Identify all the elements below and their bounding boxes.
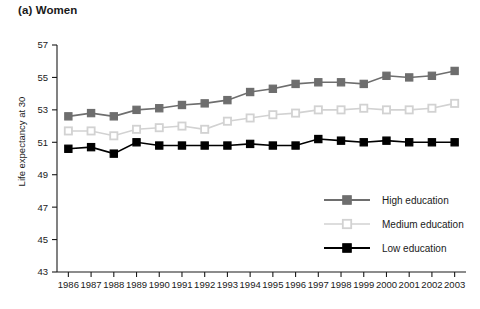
x-axis-tick-label: 1998 bbox=[330, 279, 351, 290]
y-axis-tick-label: 45 bbox=[37, 234, 48, 245]
data-point-marker bbox=[224, 97, 231, 104]
data-point-marker bbox=[406, 106, 413, 113]
data-point-marker bbox=[201, 126, 208, 133]
data-point-marker bbox=[65, 145, 72, 152]
x-axis-tick-label: 1994 bbox=[240, 279, 261, 290]
data-point-marker bbox=[360, 139, 367, 146]
series-high-education bbox=[65, 67, 458, 120]
data-point-marker bbox=[315, 79, 322, 86]
x-axis-tick-label: 2000 bbox=[376, 279, 397, 290]
x-axis-tick-label: 1991 bbox=[171, 279, 192, 290]
data-point-marker bbox=[360, 105, 367, 112]
data-point-marker bbox=[360, 80, 367, 87]
data-point-marker bbox=[156, 124, 163, 131]
x-axis-tick-label: 1992 bbox=[194, 279, 215, 290]
data-point-marker bbox=[247, 88, 254, 95]
y-axis-tick-label: 53 bbox=[37, 104, 48, 115]
y-axis-tick-label: 47 bbox=[37, 202, 48, 213]
data-point-marker bbox=[292, 110, 299, 117]
y-axis-tick-label: 51 bbox=[37, 137, 48, 148]
data-point-marker bbox=[383, 106, 390, 113]
legend-item-high-education: High education bbox=[324, 195, 449, 206]
data-point-marker bbox=[110, 113, 117, 120]
data-point-marker bbox=[247, 114, 254, 121]
y-axis-tick-label: 49 bbox=[37, 169, 48, 180]
data-point-marker bbox=[87, 110, 94, 117]
data-point-marker bbox=[337, 79, 344, 86]
legend-label: High education bbox=[382, 195, 449, 206]
data-point-marker bbox=[87, 144, 94, 151]
data-point-marker bbox=[65, 113, 72, 120]
data-point-marker bbox=[406, 139, 413, 146]
x-axis-tick-label: 1993 bbox=[217, 279, 238, 290]
data-point-marker bbox=[428, 139, 435, 146]
series-line bbox=[68, 103, 454, 135]
data-point-marker bbox=[315, 135, 322, 142]
legend-swatch-marker bbox=[343, 196, 351, 204]
data-point-marker bbox=[178, 101, 185, 108]
data-point-marker bbox=[269, 111, 276, 118]
legend-item-medium-education: Medium education bbox=[324, 219, 464, 230]
data-point-marker bbox=[451, 67, 458, 74]
data-point-marker bbox=[428, 105, 435, 112]
x-axis-tick-labels: 1986198719881989199019911992199319941995… bbox=[58, 279, 465, 290]
data-point-marker bbox=[201, 142, 208, 149]
data-point-marker bbox=[406, 74, 413, 81]
data-point-marker bbox=[292, 142, 299, 149]
x-axis-tick-label: 2003 bbox=[444, 279, 465, 290]
data-point-marker bbox=[110, 150, 117, 157]
data-point-marker bbox=[201, 100, 208, 107]
data-point-marker bbox=[451, 139, 458, 146]
line-chart: 1986198719881989199019911992199319941995… bbox=[0, 0, 480, 309]
y-axis-tick-label: 57 bbox=[37, 39, 48, 50]
data-point-marker bbox=[224, 142, 231, 149]
data-point-marker bbox=[133, 126, 140, 133]
x-axis-tick-label: 1999 bbox=[353, 279, 374, 290]
data-point-marker bbox=[315, 106, 322, 113]
y-axis-tick-label: 55 bbox=[37, 72, 48, 83]
data-point-marker bbox=[383, 72, 390, 79]
figure-panel-women: (a) Women Life expectancy at 30 19861987… bbox=[0, 0, 480, 309]
legend-swatch-marker bbox=[343, 220, 351, 228]
x-axis-tick-label: 1990 bbox=[149, 279, 170, 290]
data-point-marker bbox=[87, 127, 94, 134]
data-point-marker bbox=[224, 118, 231, 125]
x-axis-tick-label: 2002 bbox=[421, 279, 442, 290]
data-point-marker bbox=[337, 106, 344, 113]
x-axis-tick-label: 1995 bbox=[262, 279, 283, 290]
x-axis-tick-label: 2001 bbox=[399, 279, 420, 290]
data-point-marker bbox=[65, 127, 72, 134]
chart-legend: High educationMedium educationLow educat… bbox=[324, 195, 464, 254]
data-point-marker bbox=[110, 132, 117, 139]
data-point-marker bbox=[156, 105, 163, 112]
x-axis-tick-label: 1988 bbox=[103, 279, 124, 290]
x-axis-tick-label: 1997 bbox=[308, 279, 329, 290]
x-axis-tick-label: 1996 bbox=[285, 279, 306, 290]
data-point-marker bbox=[178, 122, 185, 129]
series-medium-education bbox=[65, 100, 458, 140]
data-point-marker bbox=[383, 137, 390, 144]
chart-series bbox=[65, 67, 458, 157]
y-axis-tick-label: 43 bbox=[37, 266, 48, 277]
legend-label: Low education bbox=[382, 243, 447, 254]
data-point-marker bbox=[451, 100, 458, 107]
data-point-marker bbox=[292, 80, 299, 87]
legend-item-low-education: Low education bbox=[324, 243, 447, 254]
data-point-marker bbox=[178, 142, 185, 149]
x-axis-tick-label: 1987 bbox=[81, 279, 102, 290]
data-point-marker bbox=[269, 85, 276, 92]
data-point-marker bbox=[133, 139, 140, 146]
y-axis-tick-labels: 4345474951535557 bbox=[37, 39, 48, 277]
data-point-marker bbox=[428, 72, 435, 79]
data-point-marker bbox=[337, 137, 344, 144]
data-point-marker bbox=[269, 142, 276, 149]
legend-swatch-marker bbox=[343, 244, 351, 252]
data-point-marker bbox=[247, 140, 254, 147]
series-low-education bbox=[65, 135, 458, 157]
series-line bbox=[68, 139, 454, 154]
data-point-marker bbox=[156, 142, 163, 149]
data-point-marker bbox=[133, 106, 140, 113]
x-axis-tick-label: 1989 bbox=[126, 279, 147, 290]
x-axis-tick-label: 1986 bbox=[58, 279, 79, 290]
legend-label: Medium education bbox=[382, 219, 464, 230]
